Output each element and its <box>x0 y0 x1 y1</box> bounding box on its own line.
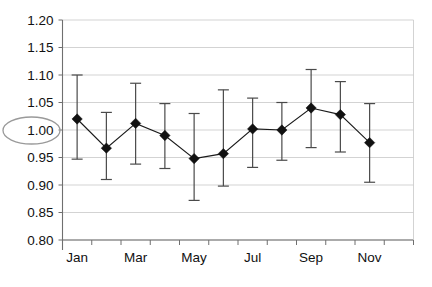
x-tick-label-may: May <box>181 250 207 265</box>
chart-container: 1.201.151.101.051.000.950.900.850.80 Jan… <box>0 0 432 287</box>
y-tick-label-1.15: 1.15 <box>27 40 53 55</box>
line-chart-with-error-bars: 1.201.151.101.051.000.950.900.850.80 Jan… <box>0 0 432 287</box>
x-tick-label-jul: Jul <box>244 250 261 265</box>
y-axis-tick-labels: 1.201.151.101.051.000.950.900.850.80 <box>27 13 53 248</box>
y-tick-label-0.95: 0.95 <box>27 150 53 165</box>
y-tick-label-0.80: 0.80 <box>27 233 53 248</box>
x-tick-label-jan: Jan <box>66 250 88 265</box>
y-tick-label-0.90: 0.90 <box>27 178 53 193</box>
x-tick-label-mar: Mar <box>124 250 148 265</box>
x-tick-label-sep: Sep <box>299 250 323 265</box>
y-tick-label-1.00: 1.00 <box>27 123 53 138</box>
x-tick-label-nov: Nov <box>358 250 382 265</box>
y-tick-label-1.10: 1.10 <box>27 68 53 83</box>
y-tick-label-1.20: 1.20 <box>27 13 53 28</box>
y-tick-label-0.85: 0.85 <box>27 205 53 220</box>
y-tick-label-1.05: 1.05 <box>27 95 53 110</box>
